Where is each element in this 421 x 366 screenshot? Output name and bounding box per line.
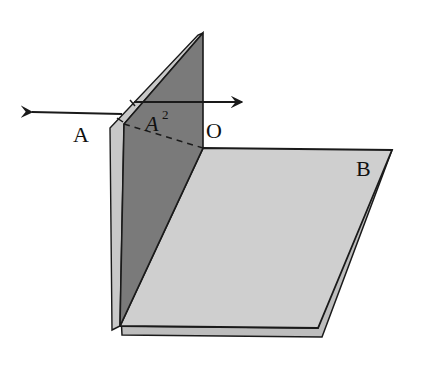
dihedral-figure: A A 2 O B bbox=[0, 0, 421, 366]
label-B: B bbox=[356, 156, 371, 181]
label-O: O bbox=[206, 118, 222, 143]
left-arrow bbox=[32, 112, 122, 114]
diagram-canvas: A A 2 O B bbox=[0, 0, 421, 366]
label-A: A bbox=[73, 122, 89, 147]
label-A2-superscript: 2 bbox=[162, 107, 169, 122]
label-A2: A bbox=[143, 111, 159, 136]
